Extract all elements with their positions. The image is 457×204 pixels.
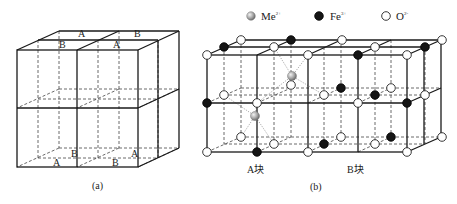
- me-ion: [288, 72, 297, 81]
- o-ion: [203, 148, 212, 157]
- label-a-top-back-right: B: [134, 28, 141, 39]
- me-ion-legend-icon: [247, 12, 256, 21]
- spinel-structure-figure: A B B A B A A B (a) Me2+ Fe3+ O2-: [0, 0, 457, 204]
- o-ion: [304, 51, 313, 60]
- fe-ion: [320, 140, 329, 149]
- o-ion: [403, 51, 412, 60]
- label-a-bottom-back-right: A: [131, 148, 139, 159]
- legend-me-name: Me2+: [261, 10, 281, 22]
- legend: Me2+ Fe3+ O2-: [247, 10, 409, 22]
- label-a-top-back-left: A: [78, 28, 86, 39]
- legend-o-name: O2-: [396, 10, 408, 22]
- label-a-bottom-front-right: B: [112, 157, 119, 168]
- fe-ion-legend-icon: [315, 12, 324, 21]
- fe-ion: [287, 36, 296, 45]
- label-a-top-front-right: A: [113, 39, 121, 50]
- o-ion: [270, 43, 279, 52]
- fe-ion: [371, 91, 380, 100]
- o-ion: [287, 81, 296, 90]
- o-ion: [270, 140, 279, 149]
- o-ion: [371, 43, 380, 52]
- fe-ion: [387, 133, 396, 142]
- o-ion: [371, 140, 380, 149]
- o-ion: [253, 99, 262, 108]
- me-ion: [251, 112, 260, 121]
- fe-ion: [253, 148, 262, 157]
- label-a-bottom-front-left: A: [53, 157, 61, 168]
- o-ion: [438, 133, 447, 142]
- o-ion: [338, 36, 347, 45]
- fe-ion: [403, 99, 412, 108]
- fe-ion: [421, 43, 430, 52]
- o-ion: [304, 148, 313, 157]
- block-b-label: B块: [347, 164, 364, 175]
- caption-a: (a): [92, 180, 103, 192]
- block-a-label: A块: [247, 164, 264, 175]
- o-ions: [203, 36, 447, 157]
- o-ion: [237, 133, 246, 142]
- o-ion: [438, 36, 447, 45]
- o-ion: [337, 133, 346, 142]
- fe-ion: [203, 99, 212, 108]
- figure-a-cube: A B B A B A A B (a): [17, 28, 179, 192]
- label-a-top-front-left: B: [59, 39, 66, 50]
- legend-fe-name: Fe3+: [330, 10, 347, 22]
- o-ion: [320, 91, 329, 100]
- fe-ion: [220, 43, 229, 52]
- o-ion: [237, 36, 246, 45]
- o-ion: [421, 91, 430, 100]
- caption-b: (b): [310, 181, 322, 193]
- o-ion-legend-icon: [382, 12, 391, 21]
- o-ion: [203, 51, 212, 60]
- o-ion: [403, 148, 412, 157]
- o-ion: [387, 84, 396, 93]
- o-ion: [354, 99, 363, 108]
- fe-ion: [354, 51, 363, 60]
- figure-a-hidden-edges: [17, 31, 179, 167]
- o-ion: [220, 91, 229, 100]
- figure-b-lattice: A块 B块 (b): [203, 36, 447, 193]
- label-a-bottom-back-left: B: [71, 148, 78, 159]
- fe-ion: [337, 84, 346, 93]
